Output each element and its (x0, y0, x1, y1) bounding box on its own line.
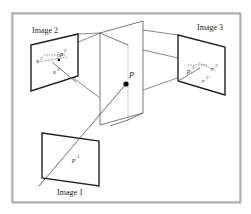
label-p3: p (186, 67, 191, 75)
label-P: P (128, 71, 134, 80)
label-p1-sup: 1 (77, 154, 80, 159)
label-s1: s (36, 57, 39, 65)
label-r2: r (211, 65, 214, 73)
diagram-canvas: p 2 s 2 s 2 Image 2 p 3 r 3 r 3 Image 3 … (0, 0, 251, 214)
label-s2: s (53, 68, 56, 76)
label-image3: Image 3 (197, 23, 223, 32)
label-image1: Image 1 (57, 188, 83, 197)
label-p1: p (71, 156, 76, 164)
label-image2: Image 2 (32, 26, 58, 35)
point-P (123, 81, 128, 86)
image2: p 2 s 2 s 2 (31, 34, 78, 91)
central-plane (100, 21, 143, 126)
image3: p 3 r 3 r 3 (178, 35, 225, 95)
label-r1: r (202, 77, 205, 85)
image1: p 1 (42, 133, 99, 186)
